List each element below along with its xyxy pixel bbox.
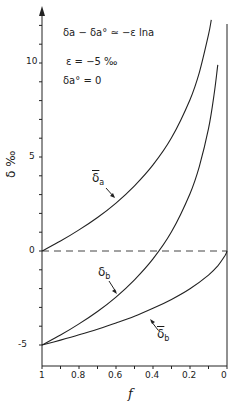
y-axis-label: δ ‰	[4, 151, 18, 178]
x-tick-0.2: 0.2	[182, 371, 196, 380]
epsilon-annotation: ε = −5 ‰	[66, 57, 117, 67]
x-tick-0.8: 0.8	[71, 371, 85, 380]
x-tick-1: 1	[39, 371, 45, 380]
y-tick-5: 5	[29, 152, 35, 161]
curve-delta-a-bar	[42, 20, 211, 251]
x-tick-0: 0	[221, 371, 227, 380]
curve-delta-b-bar	[42, 251, 227, 345]
label-delta-b-bar: δb	[157, 328, 169, 345]
x-tick-0.6: 0.6	[108, 371, 122, 380]
arrowhead-icon	[150, 319, 155, 324]
label-delta-a-bar: δa	[92, 172, 104, 189]
y-tick-10: 10	[26, 57, 37, 66]
delta-zero-annotation: δa° = 0	[63, 76, 101, 86]
label-subscript: b	[105, 272, 110, 281]
label-delta-b: δb	[98, 266, 110, 283]
y-axis-arrow-icon	[39, 6, 45, 16]
y-tick-minus5: -5	[18, 340, 27, 349]
x-tick-0.4: 0.4	[145, 371, 159, 380]
y-tick-0: 0	[29, 246, 35, 255]
curve-delta-b	[42, 65, 218, 345]
equation-annotation: δa − δa° ≃ −ε lna	[63, 28, 154, 38]
label-subscript: b	[164, 334, 169, 343]
label-subscript: a	[99, 178, 104, 187]
x-axis-label: f	[128, 386, 133, 401]
